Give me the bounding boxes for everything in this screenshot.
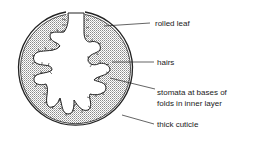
label-rolled-leaf: rolled leaf (155, 19, 190, 28)
leader-thick-cuticle (122, 115, 154, 124)
label-hairs: hairs (157, 58, 174, 67)
label-stomata-line1: stomata at bases of (157, 88, 227, 97)
rolled-leaf-diagram (0, 0, 253, 146)
label-stomata-line2: folds in inner layer (157, 99, 222, 108)
label-thick-cuticle: thick cuticle (157, 120, 198, 129)
leaf-cross-section (18, 12, 132, 125)
